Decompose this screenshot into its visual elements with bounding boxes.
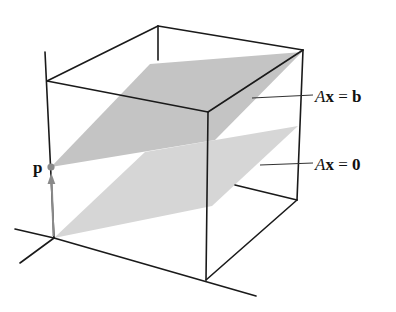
box-back-right-vertical xyxy=(297,50,303,200)
box-bottom-back-edge xyxy=(235,185,297,200)
translation-arrow-shaft xyxy=(52,180,54,236)
depth-axis xyxy=(20,238,54,263)
left-axis xyxy=(15,229,54,238)
arrow-head-icon xyxy=(48,173,56,184)
label-ax-eq-b: Ax = b xyxy=(314,87,361,106)
box-top-back-edge xyxy=(158,26,303,50)
point-p-label: p xyxy=(33,158,42,177)
box-bottom-right-edge xyxy=(206,200,297,280)
leader-ax-eq-b xyxy=(252,95,313,98)
box-top-left-edge xyxy=(47,26,158,81)
point-p-dot xyxy=(47,163,54,170)
solution-sets-diagram: p Ax = b Ax = 0 xyxy=(0,0,396,312)
label-ax-eq-0: Ax = 0 xyxy=(314,155,360,174)
leader-ax-eq-0 xyxy=(260,163,313,165)
horizontal-axis xyxy=(54,238,256,296)
